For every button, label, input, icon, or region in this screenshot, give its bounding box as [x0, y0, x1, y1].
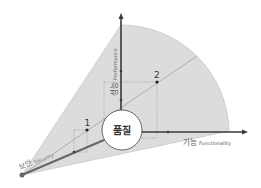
performance-arrow-icon	[119, 13, 124, 19]
point-1-label: 1	[85, 118, 91, 128]
quality-center-label: 품질	[113, 125, 131, 136]
point-1-marker	[85, 128, 88, 131]
point-2-marker	[155, 80, 158, 83]
point-2-label: 2	[154, 70, 160, 80]
functionality-label-en: Functionality	[199, 140, 231, 147]
performance-label-en: Performance	[112, 48, 118, 80]
functionality-label-ko: 기능	[183, 138, 197, 147]
quality-sector	[22, 25, 229, 175]
functionality-arrow-icon	[242, 130, 248, 135]
security-axis-origin	[20, 173, 25, 178]
quality-diagram: 1 2 품질 성능 Performance 기능 Functionality 보…	[0, 0, 261, 188]
performance-label-ko: 성능	[110, 82, 119, 96]
